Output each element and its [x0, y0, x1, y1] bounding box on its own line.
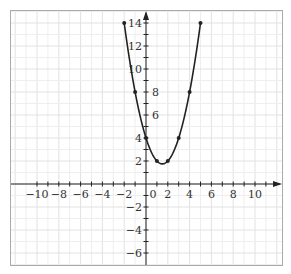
data-point — [177, 136, 181, 140]
data-point — [199, 21, 203, 25]
y-tick-label: −4 — [126, 224, 142, 237]
y-tick-label: 12 — [128, 40, 142, 53]
x-tick-label: −10 — [25, 188, 48, 201]
x-tick-label: 2 — [164, 188, 171, 201]
data-point — [122, 21, 126, 25]
x-tick-label: 0 — [150, 188, 157, 201]
x-tick-label: −8 — [51, 188, 67, 201]
x-tick-labels: −10−8−6−4−20246810 — [25, 188, 262, 201]
y-tick-label: −6 — [126, 247, 142, 260]
y-tick-label: 14 — [128, 17, 142, 30]
parabola-chart: −10−8−6−4−20246810 −6−4−22468101214 — [0, 0, 291, 274]
y-tick-label: 2 — [135, 155, 142, 168]
x-tick-label: 10 — [248, 188, 262, 201]
x-tick-label: −4 — [94, 188, 110, 201]
y-tick-label: 4 — [135, 132, 142, 145]
x-tick-label: 6 — [208, 188, 215, 201]
x-axis-arrow-icon — [273, 181, 282, 187]
data-point — [188, 90, 192, 94]
data-point — [155, 159, 159, 163]
y-tick-label: 8 — [152, 86, 159, 99]
data-point — [133, 90, 137, 94]
x-tick-label: 8 — [230, 188, 237, 201]
data-point — [166, 159, 170, 163]
x-tick-label: −2 — [116, 188, 132, 201]
y-axis-arrow-icon — [143, 11, 149, 20]
y-tick-label: −2 — [126, 201, 142, 214]
x-tick-label: −6 — [72, 188, 88, 201]
x-tick-label: 4 — [186, 188, 193, 201]
y-tick-label: 6 — [152, 109, 159, 122]
data-point — [144, 136, 148, 140]
